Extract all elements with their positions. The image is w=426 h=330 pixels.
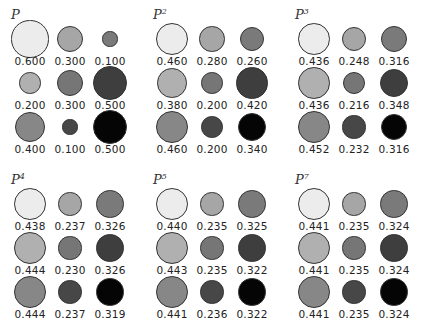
probability-circle — [200, 280, 223, 303]
probability-circle — [57, 26, 83, 52]
matrix-cell: 0.340 — [232, 108, 272, 152]
matrix-panel-p7: P70.4410.2350.3240.4410.2350.3240.4410.2… — [284, 165, 426, 330]
matrix-cell: 0.237 — [50, 185, 90, 229]
probability-circle — [342, 115, 365, 138]
matrix-cell: 0.322 — [232, 229, 272, 273]
probability-circle — [93, 66, 127, 100]
probability-circle — [156, 111, 189, 144]
probability-value: 0.500 — [90, 143, 130, 155]
probability-circle — [298, 232, 330, 264]
probability-circle — [201, 116, 222, 137]
probability-value: 0.237 — [50, 308, 90, 320]
probability-circle — [199, 26, 224, 51]
probability-value: 0.235 — [334, 308, 374, 320]
probability-value: 0.441 — [294, 308, 334, 320]
matrix-cell: 0.441 — [294, 229, 334, 273]
probability-value: 0.340 — [232, 143, 272, 155]
probability-value: 0.324 — [374, 308, 414, 320]
probability-circle — [238, 190, 265, 217]
matrix-cell: 0.600 — [10, 20, 50, 64]
matrix-panel-p3: P30.4360.2480.3160.4360.2160.3480.4520.2… — [284, 0, 426, 165]
matrix-cell: 0.237 — [50, 273, 90, 317]
matrix-cell: 0.460 — [152, 108, 192, 152]
probability-circle — [200, 236, 223, 259]
matrix-cell: 0.100 — [90, 20, 130, 64]
probability-circle — [96, 278, 123, 305]
probability-circle — [380, 278, 407, 305]
probability-value: 0.232 — [334, 143, 374, 155]
probability-circle — [157, 68, 187, 98]
matrix-panel-p2: P20.4600.2800.2600.3800.2000.4200.4600.2… — [142, 0, 284, 165]
matrix-cell: 0.326 — [90, 229, 130, 273]
matrix-cell: 0.200 — [10, 64, 50, 108]
matrix-cell: 0.248 — [334, 20, 374, 64]
matrix-panel-p5: P50.4400.2350.3250.4430.2350.3220.4410.2… — [142, 165, 284, 330]
matrix-panel-p4: P40.4380.2370.3260.4440.2300.3260.4440.2… — [0, 165, 142, 330]
probability-circle — [201, 72, 222, 93]
matrix-cell: 0.260 — [232, 20, 272, 64]
probability-circle — [11, 20, 48, 57]
matrix-cell: 0.420 — [232, 64, 272, 108]
probability-circle — [156, 232, 188, 264]
probability-value: 0.460 — [152, 143, 192, 155]
matrix-cell: 0.436 — [294, 20, 334, 64]
probability-circle — [298, 276, 330, 308]
matrix-panel-p1: P0.6000.3000.1000.2000.3000.5000.4000.10… — [0, 0, 142, 165]
probability-value: 0.452 — [294, 143, 334, 155]
probability-circle — [298, 188, 330, 220]
matrix-cell: 0.100 — [50, 108, 90, 152]
title-exponent: 3 — [304, 7, 309, 16]
matrix-cell: 0.438 — [10, 185, 50, 229]
probability-circle — [93, 110, 127, 144]
matrix-cell: 0.441 — [294, 273, 334, 317]
probability-circle — [342, 27, 366, 51]
probability-circle — [381, 114, 408, 141]
probability-circle — [200, 192, 223, 215]
matrix-cell: 0.230 — [50, 229, 90, 273]
matrix-cell: 0.324 — [374, 229, 414, 273]
matrix-cell: 0.200 — [192, 64, 232, 108]
probability-circle — [238, 278, 265, 305]
probability-value: 0.200 — [192, 143, 232, 155]
matrix-cell: 0.324 — [374, 273, 414, 317]
matrix-cell: 0.216 — [334, 64, 374, 108]
probability-value: 0.444 — [10, 308, 50, 320]
matrix-cell: 0.235 — [334, 229, 374, 273]
probability-circle — [58, 192, 81, 215]
probability-value: 0.400 — [10, 143, 50, 155]
probability-circle — [156, 23, 189, 56]
probability-value: 0.322 — [232, 308, 272, 320]
matrix-cell: 0.443 — [152, 229, 192, 273]
probability-circle — [342, 192, 365, 215]
matrix-cell: 0.444 — [10, 229, 50, 273]
matrix-cell: 0.300 — [50, 64, 90, 108]
matrix-cell: 0.440 — [152, 185, 192, 229]
probability-value: 0.319 — [90, 308, 130, 320]
probability-circle — [380, 69, 408, 97]
probability-circle — [14, 232, 46, 264]
matrix-cell: 0.452 — [294, 108, 334, 152]
probability-circle — [58, 280, 81, 303]
matrix-cell: 0.380 — [152, 64, 192, 108]
probability-circle — [14, 188, 46, 220]
matrix-cell: 0.326 — [90, 185, 130, 229]
probability-circle — [298, 23, 330, 55]
matrix-cell: 0.322 — [232, 273, 272, 317]
matrix-cell: 0.280 — [192, 20, 232, 64]
probability-circle — [380, 234, 407, 261]
matrix-cell: 0.460 — [152, 20, 192, 64]
probability-value: 0.100 — [50, 143, 90, 155]
matrix-cell: 0.319 — [90, 273, 130, 317]
probability-circle — [96, 190, 123, 217]
matrix-cell: 0.316 — [374, 20, 414, 64]
probability-circle — [342, 236, 365, 259]
matrix-cell: 0.235 — [334, 185, 374, 229]
probability-circle — [14, 276, 46, 308]
matrix-cell: 0.232 — [334, 108, 374, 152]
matrix-cell: 0.436 — [294, 64, 334, 108]
probability-circle — [15, 112, 45, 142]
matrix-cell: 0.441 — [152, 273, 192, 317]
title-exponent: 7 — [304, 172, 309, 181]
probability-circle — [57, 70, 83, 96]
probability-value: 0.316 — [374, 143, 414, 155]
